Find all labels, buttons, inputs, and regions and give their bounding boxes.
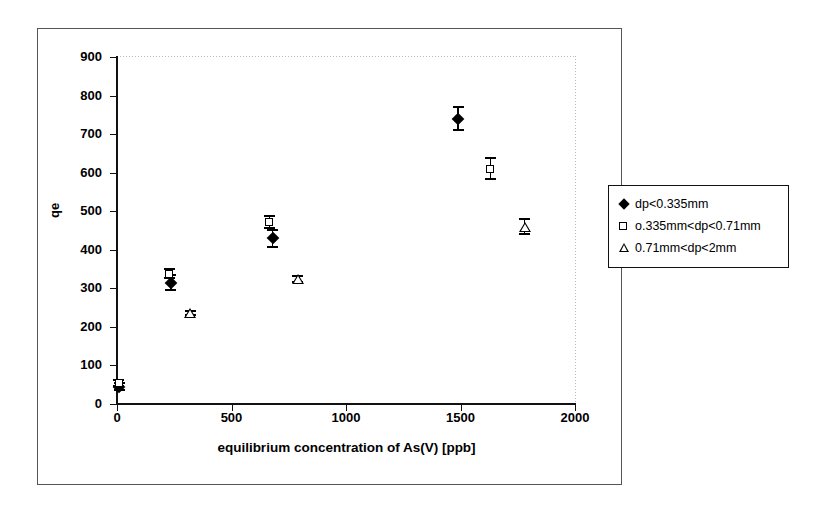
y-tick-label: 200	[62, 319, 102, 334]
open-square-marker	[115, 379, 123, 387]
data-point	[448, 109, 468, 129]
error-bar-cap-bottom	[485, 178, 496, 180]
x-tick-label: 0	[87, 410, 147, 425]
data-point	[288, 269, 308, 289]
chart-legend: dp<0.335mm o.335mm<dp<0.71mm 0.71mm<dp<2…	[608, 185, 789, 268]
plot-border-right	[575, 56, 576, 405]
legend-item-2[interactable]: 0.71mm<dp<2mm	[617, 237, 780, 259]
error-bar-cap-top	[485, 157, 496, 159]
y-tick	[110, 57, 117, 58]
data-point	[109, 373, 129, 393]
data-point	[180, 303, 200, 323]
error-bar-cap-bottom	[519, 233, 530, 235]
y-tick	[110, 173, 117, 174]
y-tick-label: 500	[62, 203, 102, 218]
y-axis-line	[116, 56, 118, 405]
y-tick-label: 400	[62, 242, 102, 257]
data-point	[159, 264, 179, 284]
filled-diamond-marker	[452, 112, 465, 125]
error-bar-cap-bottom	[267, 246, 278, 248]
y-tick-label: 800	[62, 88, 102, 103]
x-tick-label: 1000	[316, 410, 376, 425]
open-triangle-marker-inner	[294, 276, 302, 283]
y-tick	[110, 211, 117, 212]
y-tick-label: 900	[62, 49, 102, 64]
y-tick-label: 300	[62, 280, 102, 295]
filled-diamond-marker	[266, 232, 279, 245]
y-tick	[110, 365, 117, 366]
y-tick-label: 600	[62, 165, 102, 180]
x-tick-label: 1500	[431, 410, 491, 425]
x-axis-title: equilibrium concentration of As(V) [ppb]	[117, 440, 576, 455]
legend-item-0[interactable]: dp<0.335mm	[617, 193, 780, 215]
y-tick-label: 700	[62, 126, 102, 141]
y-tick	[110, 404, 117, 405]
legend-label-0: dp<0.335mm	[635, 197, 708, 211]
x-tick-label: 2000	[545, 410, 605, 425]
x-tick-label: 500	[202, 410, 262, 425]
y-tick	[110, 134, 117, 135]
open-triangle-icon	[617, 240, 635, 256]
legend-item-1[interactable]: o.335mm<dp<0.71mm	[617, 215, 780, 237]
y-axis-title: qe	[47, 203, 62, 218]
data-point	[480, 159, 500, 179]
open-square-marker	[165, 270, 173, 278]
open-square-marker	[486, 165, 494, 173]
open-triangle-marker-inner	[521, 224, 529, 231]
open-square-marker	[265, 218, 273, 226]
error-bar-cap-top	[264, 215, 275, 217]
error-bar-cap-top	[519, 218, 530, 220]
open-triangle-marker-inner	[186, 310, 194, 317]
error-bar-cap-top	[453, 106, 464, 108]
y-tick	[110, 96, 117, 97]
y-tick	[110, 250, 117, 251]
data-point	[515, 217, 535, 237]
filled-diamond-icon	[617, 196, 635, 212]
data-point	[259, 212, 279, 232]
plot-border-top	[117, 56, 576, 57]
legend-label-2: 0.71mm<dp<2mm	[635, 241, 736, 255]
open-square-icon	[617, 218, 635, 234]
y-tick	[110, 288, 117, 289]
legend-label-1: o.335mm<dp<0.71mm	[635, 219, 761, 233]
y-tick-label: 100	[62, 357, 102, 372]
y-tick	[110, 327, 117, 328]
error-bar-cap-bottom	[264, 227, 275, 229]
y-tick-label: 0	[62, 396, 102, 411]
error-bar-cap-bottom	[453, 129, 464, 131]
